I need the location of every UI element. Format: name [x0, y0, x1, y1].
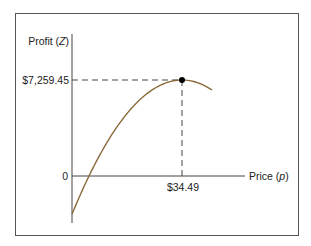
x-tick-label-optimum: $34.49 [167, 181, 199, 193]
y-axis-label: Profit (Z) [28, 35, 69, 47]
profit-curve [72, 80, 212, 214]
optimum-point [179, 77, 185, 83]
x-axis-label: Price (p) [249, 170, 289, 182]
origin-label: 0 [62, 170, 68, 182]
x-axis-label-text: Price [249, 170, 273, 182]
y-axis-label-text: Profit [28, 35, 53, 47]
profit-chart: Profit (Z) Price (p) $7,259.45 $34.49 0 [0, 0, 311, 246]
y-tick-label-optimum: $7,259.45 [22, 74, 69, 86]
